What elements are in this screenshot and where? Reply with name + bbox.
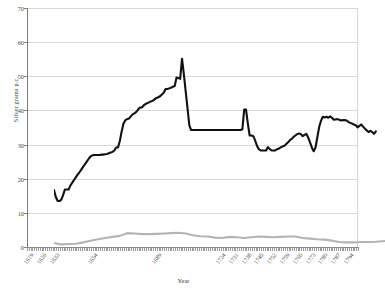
- gridline: [27, 8, 358, 9]
- x-axis-title: Year: [0, 277, 367, 284]
- y-tick-mark: [24, 42, 27, 43]
- x-minor-tick: [73, 248, 74, 251]
- plot-area: [27, 8, 358, 247]
- y-tick-mark: [24, 145, 27, 146]
- y-tick-mark: [24, 213, 27, 214]
- x-minor-tick: [120, 248, 121, 251]
- x-tick-label: 1626: [35, 252, 47, 265]
- x-minor-tick: [358, 248, 359, 251]
- y-tick-label: 20: [2, 175, 24, 182]
- x-tick-label: 1633: [48, 252, 60, 265]
- y-tick-label: 60: [2, 39, 24, 46]
- y-tick-label: 40: [2, 107, 24, 114]
- series-black: [54, 59, 376, 201]
- y-tick-mark: [24, 110, 27, 111]
- y-tick-mark: [24, 8, 27, 9]
- data-series-layer: [54, 16, 385, 255]
- x-minor-tick: [215, 248, 216, 251]
- y-tick-label: 0: [2, 244, 24, 251]
- y-tick-mark: [24, 76, 27, 77]
- x-minor-tick: [356, 248, 357, 251]
- y-tick-label: 70: [2, 5, 24, 12]
- y-axis-title: Silver grams p.c.: [12, 55, 19, 145]
- y-tick-label: 50: [2, 73, 24, 80]
- x-tick-label: 1619: [23, 252, 35, 265]
- x-minor-tick: [263, 248, 264, 251]
- y-tick-label: 10: [2, 209, 24, 216]
- y-tick-mark: [24, 179, 27, 180]
- series-gray: [54, 233, 385, 245]
- y-axis-line: [27, 8, 28, 248]
- x-minor-tick: [310, 248, 311, 251]
- x-minor-tick: [168, 248, 169, 251]
- y-tick-label: 30: [2, 141, 24, 148]
